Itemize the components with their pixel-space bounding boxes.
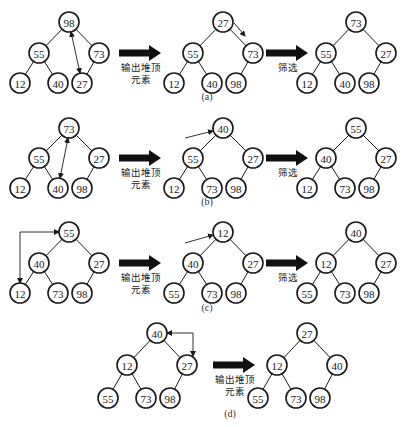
tree-edge (363, 239, 379, 256)
tree-edge (333, 135, 349, 151)
node-value: 55 (188, 48, 200, 60)
node-value: 12 (169, 78, 180, 90)
node-value: 55 (253, 393, 265, 405)
node-value: 27 (381, 48, 393, 60)
tree-edge (333, 29, 349, 46)
node-value: 12 (15, 288, 26, 300)
node-value: 73 (248, 48, 260, 60)
heap-node: 12 (267, 355, 287, 375)
node-value: 40 (188, 258, 200, 270)
node-value: 12 (272, 360, 283, 372)
tree-edge (363, 29, 379, 46)
node-value: 27 (302, 328, 314, 340)
node-value: 73 (207, 183, 219, 195)
node-value: 27 (381, 153, 393, 165)
swap-arrow-icon (71, 32, 80, 73)
tree-edge (363, 135, 379, 151)
node-value: 12 (15, 183, 26, 195)
heap-node: 12 (297, 73, 317, 93)
right-arrow-icon (266, 150, 308, 166)
node-value: 40 (152, 328, 164, 340)
right-arrow-icon (119, 45, 161, 61)
node-value: 73 (53, 288, 65, 300)
node-value: 73 (340, 288, 352, 300)
heap-node: 55 (346, 118, 366, 138)
tree-edge (134, 340, 150, 357)
heap-node: 98 (226, 73, 246, 93)
node-value: 40 (351, 227, 363, 239)
heap-node: 12 (10, 73, 30, 93)
heap-node: 73 (89, 43, 109, 63)
tree-edge (87, 167, 94, 180)
heap-node: 98 (160, 388, 180, 408)
heap-node: 27 (177, 355, 197, 375)
heap-node: 98 (72, 283, 92, 303)
arrow-label: 筛选 (278, 62, 298, 73)
arrow-label: 输出堆顶 (121, 272, 161, 283)
tree-edge (200, 29, 216, 46)
tree-edge (374, 272, 381, 285)
node-value: 27 (77, 78, 89, 90)
tree-edge (25, 61, 33, 74)
heap-node: 98 (59, 12, 79, 32)
tree-edge (331, 61, 339, 74)
heap-node: 55 (248, 388, 268, 408)
node-value: 27 (248, 258, 260, 270)
node-value: 12 (122, 360, 133, 372)
heap-node: 27 (376, 43, 396, 63)
node-value: 55 (34, 153, 46, 165)
tree-edge (179, 271, 187, 284)
node-value: 98 (77, 288, 89, 300)
tree-edge (44, 271, 52, 284)
node-value: 40 (340, 78, 352, 90)
node-value: 73 (64, 123, 76, 135)
heap-node: 40 (213, 118, 233, 138)
node-value: 12 (15, 78, 26, 90)
heap-node: 98 (226, 283, 246, 303)
node-value: 73 (141, 393, 153, 405)
node-value: 12 (321, 258, 332, 270)
heap-node: 40 (316, 148, 336, 168)
heap-node: 73 (286, 388, 306, 408)
heap-node: 73 (335, 283, 355, 303)
node-value: 40 (34, 258, 46, 270)
tree-edge (132, 374, 141, 390)
node-value: 98 (231, 183, 243, 195)
tree-edge (230, 29, 246, 46)
node-value: 98 (165, 393, 177, 405)
tree-edge (230, 135, 246, 151)
node-value: 98 (64, 17, 76, 29)
node-value: 27 (94, 153, 106, 165)
node-value: 73 (291, 393, 303, 405)
process-arrow: 输出堆顶元素 (119, 255, 161, 295)
subfigure-caption: (c) (201, 302, 212, 314)
tree-edge (76, 135, 92, 151)
process-arrow: 输出堆顶元素 (119, 150, 161, 190)
node-value: 98 (77, 183, 89, 195)
tree-edge (263, 374, 272, 390)
arrow-label: 元素 (131, 74, 151, 85)
tree-edge (175, 374, 183, 389)
sift-arrow-icon (234, 23, 245, 36)
tree-edge (25, 271, 33, 284)
tree-edge (312, 271, 320, 284)
swap-arrow-icon (167, 333, 193, 356)
heap-node: 73 (202, 283, 222, 303)
heap-node: 98 (359, 178, 379, 198)
heap-node: 27 (243, 148, 263, 168)
heap-node: 73 (136, 388, 156, 408)
node-value: 55 (351, 123, 363, 135)
tree-edge (46, 29, 62, 46)
tree-edge (25, 166, 33, 179)
tree-edge (76, 239, 92, 256)
heap-node: 27 (213, 12, 233, 32)
tree-edge (312, 166, 320, 179)
right-arrow-icon (213, 357, 255, 373)
heap-node: 55 (59, 222, 79, 242)
tree-edge (164, 340, 180, 357)
process-arrow: 筛选 (266, 255, 308, 283)
tree-edge (331, 271, 339, 284)
tree-edge (198, 166, 206, 179)
heap-node: 73 (48, 283, 68, 303)
tree-edge (198, 271, 206, 284)
